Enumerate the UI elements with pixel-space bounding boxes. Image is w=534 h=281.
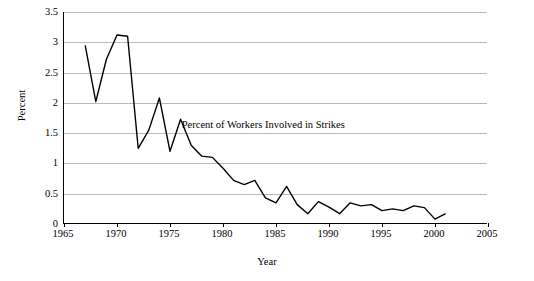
- series-annotation: Percent of Workers Involved in Strikes: [182, 119, 345, 130]
- y-tick-label: 3.5: [30, 7, 58, 17]
- x-tick-label: 1985: [255, 228, 295, 239]
- x-tick-label: 2000: [414, 228, 454, 239]
- x-tick-label: 1970: [96, 228, 136, 239]
- y-tick-label: 2.5: [30, 68, 58, 78]
- chart-container: 00.511.522.533.5 19651970197519801985199…: [0, 0, 534, 281]
- x-tick-label: 2005: [467, 228, 507, 239]
- x-tick-label: 1990: [308, 228, 348, 239]
- y-tick-label: 1.5: [30, 128, 58, 138]
- x-tick-label: 1975: [149, 228, 189, 239]
- y-tick-label: 0.5: [30, 189, 58, 199]
- x-tick-label: 1995: [361, 228, 401, 239]
- x-tick-label: 1980: [202, 228, 242, 239]
- x-tick: [488, 223, 489, 227]
- x-tick-label: 1965: [43, 228, 83, 239]
- y-axis-title: Percent: [16, 76, 27, 136]
- y-axis-tick-labels: 00.511.522.533.5: [28, 12, 58, 224]
- y-tick-label: 3: [30, 37, 58, 47]
- x-axis-title: Year: [0, 256, 534, 267]
- y-tick-label: 2: [30, 98, 58, 108]
- y-tick-label: 1: [30, 158, 58, 168]
